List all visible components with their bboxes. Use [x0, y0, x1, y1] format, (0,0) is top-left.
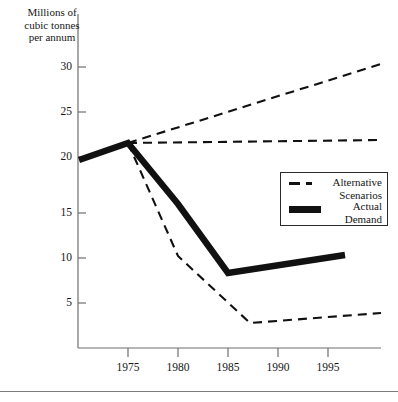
- y-axis-title-line3: per annum: [8, 31, 96, 44]
- x-tick-label-1980: 1980: [155, 361, 201, 373]
- y-axis-title-line2: cubic tonnes: [8, 19, 96, 32]
- x-tick-label-1985: 1985: [205, 361, 251, 373]
- caption-divider: [0, 391, 398, 392]
- y-tick-label-30: 30: [42, 60, 72, 72]
- x-tick-label-1995: 1995: [305, 361, 351, 373]
- chart-figure: Millions of cubic tonnes per annum 30 25…: [0, 0, 398, 402]
- legend-label-alternative-scenarios: Alternative Scenarios: [302, 176, 382, 201]
- y-tick-marks: [78, 67, 86, 303]
- legend-label-actual-demand: Actual Demand: [302, 200, 382, 225]
- series-line-alternative-flat: [128, 140, 381, 143]
- x-tick-label-1975: 1975: [105, 361, 151, 373]
- y-tick-label-10: 10: [42, 251, 72, 263]
- series-line-alternative-low: [128, 143, 381, 323]
- x-tick-marks: [128, 348, 328, 357]
- legend-label-actual-line1: Actual: [302, 200, 382, 213]
- x-tick-label-1990: 1990: [255, 361, 301, 373]
- y-tick-label-5: 5: [42, 296, 72, 308]
- y-axis-title-line1: Millions of: [8, 6, 96, 19]
- y-tick-label-20: 20: [42, 150, 72, 162]
- y-axis-title: Millions of cubic tonnes per annum: [8, 6, 96, 44]
- chart-legend: Alternative Scenarios Actual Demand: [280, 172, 388, 226]
- legend-label-alternative-line1: Alternative: [302, 176, 382, 189]
- caption-text: [0, 394, 398, 402]
- legend-label-actual-line2: Demand: [302, 213, 382, 226]
- y-tick-label-15: 15: [42, 206, 72, 218]
- y-tick-label-25: 25: [42, 105, 72, 117]
- series-line-alternative-high: [128, 64, 381, 143]
